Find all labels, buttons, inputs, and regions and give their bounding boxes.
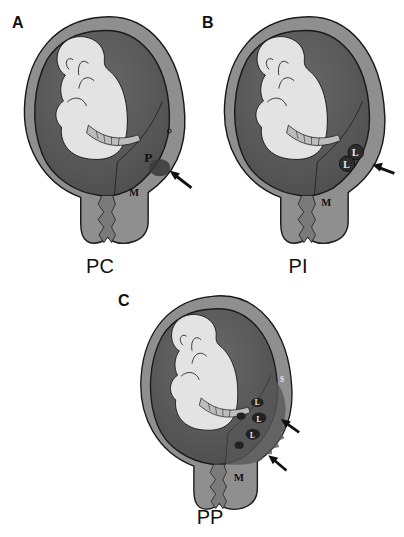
label-m: M [129,187,139,198]
label-s: S [280,376,284,384]
label-l3: L [250,432,255,440]
label-l1: L [352,147,358,158]
label-m: M [234,471,244,483]
panel-a: A P M PC [0,0,200,270]
panel-b: B L L M PI [200,0,404,270]
label-l1: L [255,399,260,407]
label-l2: L [256,416,261,424]
label-l2: L [343,159,349,170]
panel-c: C L L L S M PP [100,270,320,537]
label-m: M [321,197,331,208]
caption-pp: PP [160,506,260,529]
label-p: P [144,150,152,165]
